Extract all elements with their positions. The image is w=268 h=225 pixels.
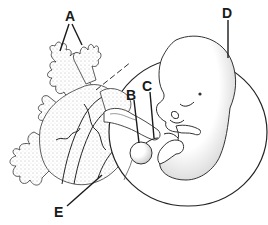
label-b: B bbox=[126, 87, 136, 103]
embryo-diagram: A B C D E bbox=[0, 0, 268, 225]
label-d: D bbox=[222, 5, 232, 21]
leader-a-right bbox=[72, 24, 82, 45]
label-a: A bbox=[65, 8, 75, 24]
label-e: E bbox=[54, 204, 63, 220]
yolk-sac bbox=[130, 142, 152, 164]
label-c: C bbox=[142, 78, 152, 94]
embryo-eye bbox=[198, 92, 201, 95]
